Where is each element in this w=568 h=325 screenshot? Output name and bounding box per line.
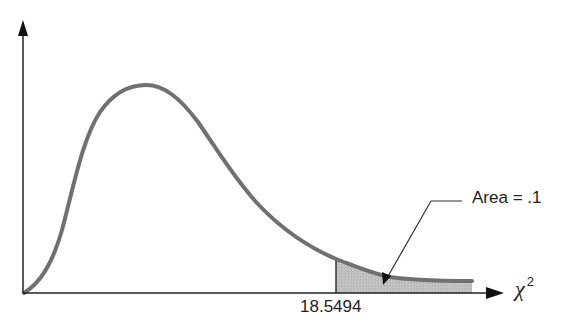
annotation-leader-line (387, 201, 462, 278)
shaded-tail-area (336, 259, 472, 293)
critical-value-label: 18.5494 (300, 297, 361, 317)
chi-symbol: χ (515, 276, 525, 301)
x-axis-arrowhead (486, 287, 504, 299)
area-annotation: Area = .1 (472, 188, 541, 208)
chi-square-chart (0, 0, 568, 325)
superscript-2: 2 (527, 274, 534, 289)
density-curve (24, 85, 472, 293)
y-axis-arrowhead (18, 20, 28, 36)
x-axis-label: χ2 (515, 276, 534, 302)
